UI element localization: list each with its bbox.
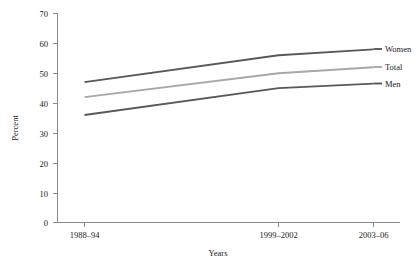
- series-label-total: Total: [385, 62, 403, 72]
- y-tick-label-70: 70: [40, 9, 49, 19]
- x-tick-label-3: 2003–06: [359, 230, 389, 240]
- x-tick-label-2: 1999–2002: [259, 230, 297, 240]
- chart-svg: 70 60 50 40 30 20 10 0 1988–94 1999–2002…: [0, 0, 417, 270]
- line-chart: 70 60 50 40 30 20 10 0 1988–94 1999–2002…: [0, 0, 417, 270]
- y-axis-title: Percent: [10, 115, 20, 141]
- series-line-men: [85, 84, 374, 115]
- y-tick-label-10: 10: [40, 189, 49, 199]
- y-tick-label-60: 60: [40, 39, 49, 49]
- series-line-women: [85, 49, 374, 82]
- y-tick-label-30: 30: [40, 129, 49, 139]
- series-label-men: Men: [385, 79, 401, 89]
- series-label-women: Women: [385, 44, 412, 54]
- y-tick-label-40: 40: [40, 99, 49, 109]
- series-line-total: [85, 67, 374, 97]
- x-tick-label-1: 1988–94: [70, 230, 101, 240]
- y-tick-label-20: 20: [40, 159, 49, 169]
- y-tick-label-0: 0: [44, 218, 48, 228]
- y-tick-label-50: 50: [40, 69, 49, 79]
- x-axis-title: Years: [209, 248, 228, 258]
